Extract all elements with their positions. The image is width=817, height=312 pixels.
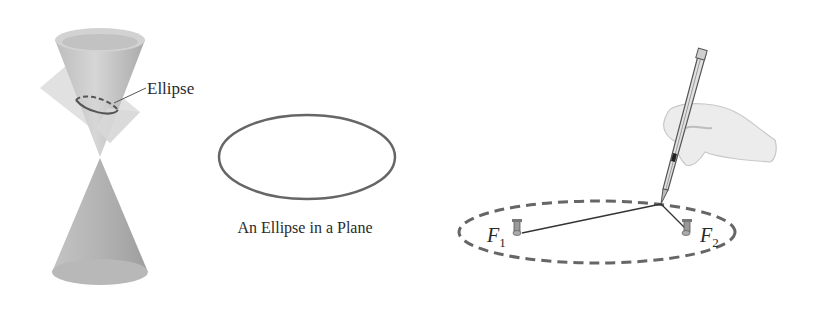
upper-nappe-inner [62,34,138,50]
conic-figure: Ellipse An Ellipse in a Plane F1 F2 [0,0,817,312]
plane-ellipse [219,115,395,199]
focus2-label: F2 [699,224,719,250]
plane-ellipse-diagram: An Ellipse in a Plane [219,115,395,237]
plane-ellipse-caption: An Ellipse in a Plane [237,219,372,237]
lower-nappe [52,158,148,272]
string-to-f2 [661,204,686,229]
ellipse-label: Ellipse [147,79,194,98]
double-cone-diagram: Ellipse [40,28,194,285]
pushpin-f1-icon [512,219,522,236]
focus1-label: F1 [486,224,506,250]
string-to-f1 [522,204,661,233]
string-construction-diagram: F1 F2 [459,48,776,263]
dashed-traced-ellipse [459,201,735,263]
lower-nappe-base [52,259,148,285]
